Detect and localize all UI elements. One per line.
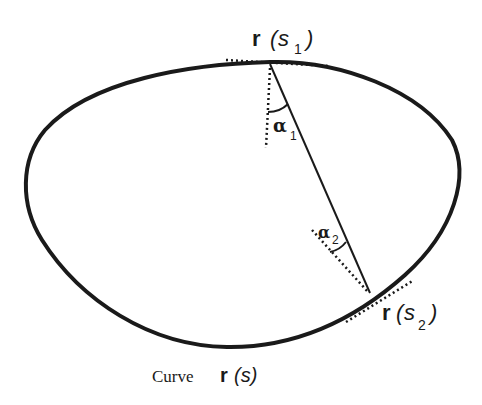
- caption: Curve r (s): [152, 364, 257, 386]
- angle-arc-alpha1: [268, 104, 288, 112]
- chord-line: [270, 64, 370, 293]
- label-r-s2: r ( s 2 ): [382, 300, 437, 333]
- curve-diagram: r ( s 1 ) α 1 α 2 r ( s 2 ) Curve r (s): [0, 0, 482, 405]
- label-alpha2: α 2: [318, 223, 339, 247]
- closed-curve: [26, 62, 459, 347]
- normal-line-s1: [266, 68, 270, 148]
- label-r-s1: r ( s 1 ): [252, 26, 313, 57]
